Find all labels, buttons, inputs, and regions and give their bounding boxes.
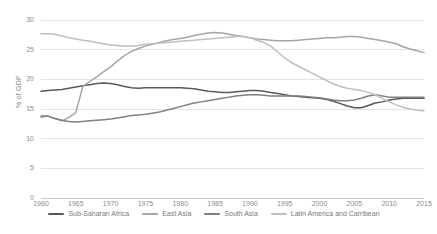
legend-swatch-icon <box>48 213 64 215</box>
x-tick-label: 1990 <box>233 200 267 207</box>
x-tick-label: 2015 <box>407 200 437 207</box>
legend-item-1[interactable]: East Asia <box>142 210 191 217</box>
series-line-2 <box>41 95 424 122</box>
legend-item-2[interactable]: South Asia <box>204 210 257 217</box>
x-tick-label: 1995 <box>268 200 302 207</box>
legend-item-0[interactable]: Sub-Saharan Africa <box>48 210 129 217</box>
series-line-3 <box>41 34 424 111</box>
x-tick-label: 1985 <box>198 200 232 207</box>
x-tick-label: 1975 <box>128 200 162 207</box>
legend-swatch-icon <box>271 213 287 215</box>
y-tick-label: 15 <box>12 105 34 112</box>
legend-item-3[interactable]: Latin America and Carribean <box>271 210 380 217</box>
x-tick-label: 1980 <box>163 200 197 207</box>
x-tick-label: 2005 <box>337 200 371 207</box>
x-tick-label: 1960 <box>24 200 58 207</box>
y-tick-label: 5 <box>12 164 34 171</box>
legend-swatch-icon <box>142 213 158 215</box>
y-tick-label: 25 <box>12 46 34 53</box>
series-line-0 <box>41 83 424 108</box>
y-tick-label: 30 <box>12 16 34 23</box>
legend-swatch-icon <box>204 213 220 215</box>
x-tick-label: 2000 <box>303 200 337 207</box>
series-line-1 <box>41 32 424 120</box>
legend-label: Latin America and Carribean <box>291 210 380 217</box>
y-tick-label: 10 <box>12 135 34 142</box>
y-tick-label: 20 <box>12 75 34 82</box>
x-tick-label: 2010 <box>372 200 406 207</box>
y-axis-title: % of GDP <box>15 62 22 122</box>
legend-label: East Asia <box>162 210 191 217</box>
legend-label: Sub-Saharan Africa <box>68 210 129 217</box>
legend-label: South Asia <box>224 210 257 217</box>
x-tick-label: 1965 <box>59 200 93 207</box>
x-tick-label: 1970 <box>94 200 128 207</box>
chart-legend: Sub-Saharan AfricaEast AsiaSouth AsiaLat… <box>0 210 428 217</box>
